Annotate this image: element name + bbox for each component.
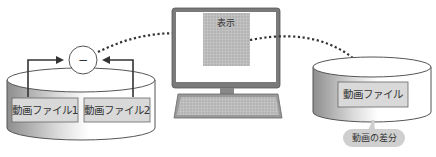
monitor-stand bbox=[220, 88, 234, 94]
minus-operator: − bbox=[69, 46, 97, 74]
diff-callout-label: 動画の差分 bbox=[352, 132, 397, 143]
display-label: 表示 bbox=[217, 17, 235, 28]
file-label-1: 動画ファイル1 bbox=[12, 104, 79, 116]
video-diff-diagram: 動画ファイル1 動画ファイル2 − 表示 動画ファイル 動画の差分 bbox=[0, 0, 436, 157]
output-file-box: 動画ファイル bbox=[338, 82, 408, 107]
computer-monitor: 表示 bbox=[172, 8, 280, 94]
diff-callout: 動画の差分 bbox=[343, 120, 405, 147]
keyboard bbox=[174, 94, 282, 118]
file-box-2: 動画ファイル2 bbox=[84, 98, 151, 122]
file-label-2: 動画ファイル2 bbox=[84, 104, 151, 116]
minus-icon: − bbox=[78, 53, 88, 67]
output-file-label: 動画ファイル bbox=[343, 88, 403, 100]
file-box-1: 動画ファイル1 bbox=[12, 98, 79, 122]
